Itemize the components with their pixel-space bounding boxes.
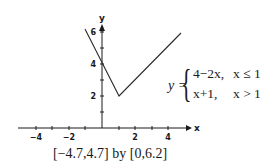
x-tick-label-4: 4	[165, 133, 171, 142]
y-axis-arrow-icon	[99, 24, 105, 31]
x-axis-arrow-icon	[186, 125, 192, 131]
case2-condition: x > 1	[233, 86, 261, 102]
y-axis-label: y	[99, 13, 105, 23]
curly-brace: {	[181, 64, 192, 104]
case1-condition: x ≤ 1	[233, 66, 261, 82]
y-tick-label-6: 6	[90, 28, 96, 37]
x-tick-label-neg2: −2	[63, 133, 75, 142]
x-tick-label-2: 2	[132, 133, 138, 142]
x-axis-label: x	[194, 123, 200, 133]
case1-expression: 4−2x,	[193, 66, 224, 82]
y-tick-label-4: 4	[90, 60, 96, 69]
window-caption: [−4.7,4.7] by [0,6.2]	[53, 146, 167, 162]
y-tick-label-2: 2	[90, 92, 96, 101]
plot-canvas: −4 −2 2 4 2 4 6 x y	[0, 0, 268, 167]
x-tick-label-neg4: −4	[30, 133, 43, 142]
piecewise-graph-line	[85, 29, 181, 96]
case2-expression: x+1,	[193, 86, 218, 102]
